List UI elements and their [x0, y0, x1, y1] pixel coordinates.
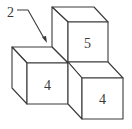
- cube-top-label: 5: [84, 36, 91, 51]
- arrowhead-icon: [42, 36, 47, 43]
- cube-right: [68, 62, 123, 119]
- cube-top: [52, 7, 108, 63]
- cube-right-label: 4: [99, 92, 106, 107]
- leader-line: [17, 10, 45, 40]
- callout-label: 2: [7, 5, 14, 20]
- cube-diagram: 2 5 4 4: [0, 0, 132, 129]
- cube-left-label: 4: [44, 78, 51, 93]
- cube-left: [12, 47, 68, 104]
- callout-arrow: [17, 10, 47, 43]
